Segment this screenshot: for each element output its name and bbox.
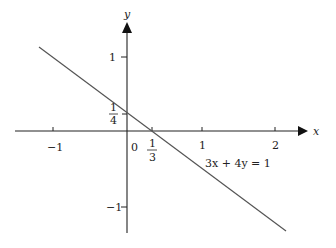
origin-label: 0	[131, 141, 138, 154]
x-tick-label-2: 2	[272, 139, 279, 152]
y-axis-arrow-icon	[122, 22, 132, 33]
graph-line	[39, 47, 286, 231]
x-tick-label-neg1: −1	[47, 141, 63, 154]
x-tick-label-1: 1	[199, 139, 206, 152]
x-axis-arrow-icon	[298, 126, 308, 136]
coordinate-plane: x y −1 1 2 0 1 −1 1 4 1 3 3x + 4y = 1	[0, 0, 336, 248]
y-axis-label: y	[123, 8, 131, 21]
y-intercept-denominator: 4	[110, 114, 117, 127]
equation-label: 3x + 4y = 1	[205, 157, 271, 170]
y-tick-label-1: 1	[109, 51, 116, 64]
y-tick-label-neg1: −1	[106, 201, 122, 214]
x-intercept-numerator: 1	[149, 137, 156, 150]
x-axis-label: x	[313, 125, 320, 138]
x-intercept-denominator: 3	[149, 151, 156, 164]
